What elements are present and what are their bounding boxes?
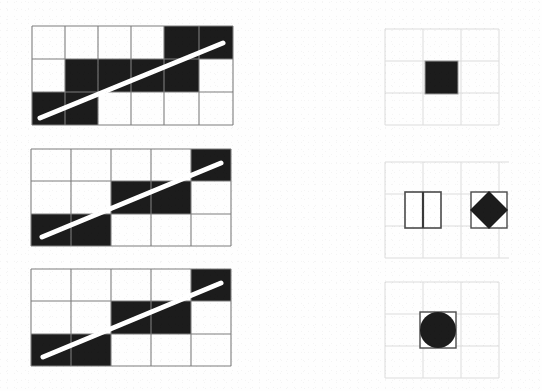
grid-diagram-2: [30, 148, 232, 247]
filled-square-shape: [425, 61, 458, 94]
circle-glyph: [420, 312, 456, 348]
white-diagonal-line: [42, 163, 221, 237]
filled-cell: [111, 301, 151, 334]
circle-in-square-shape: [420, 312, 456, 348]
shape-panel-2-container: [383, 160, 511, 260]
filled-cell: [65, 59, 98, 92]
figure-root: [0, 0, 542, 391]
grid-diagram-3-container: [30, 268, 232, 367]
shape-panel-1-container: [383, 27, 501, 127]
diamond-in-square-shape: [470, 191, 508, 229]
grid-diagram-1: [31, 25, 234, 126]
grid-diagram-3: [30, 268, 232, 367]
grid-diagram-2-container: [30, 148, 232, 247]
shape-panel-2: [383, 160, 511, 260]
shape-panel-3: [383, 280, 501, 380]
split-square-shape: [405, 192, 441, 228]
grid-diagram-1-container: [31, 25, 234, 126]
filled-cell: [111, 181, 151, 214]
filled-cell: [199, 26, 233, 59]
shape-panel-1: [383, 27, 501, 127]
shape-panel-3-container: [383, 280, 501, 380]
white-diagonal-line: [43, 283, 221, 357]
